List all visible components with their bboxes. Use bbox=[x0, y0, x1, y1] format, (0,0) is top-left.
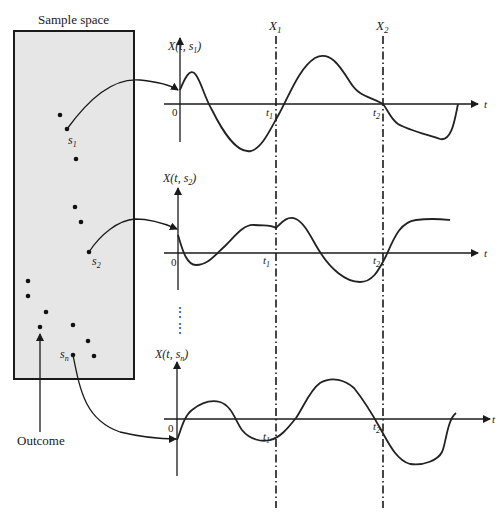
xlabel-n: t bbox=[492, 413, 496, 425]
ellipsis-top: ⋮ bbox=[174, 305, 186, 319]
random-process-diagram: Sample space s1 s2 sn Outcome X1 X2 X(t,… bbox=[0, 0, 504, 520]
t2-label-2: t2 bbox=[373, 254, 380, 269]
sample-function-2 bbox=[178, 218, 450, 282]
plot-sn: X(t, sn) 0 t1 t2 t bbox=[154, 347, 496, 476]
ylabel-n: X(t, sn) bbox=[154, 347, 188, 363]
t1-label-2: t1 bbox=[263, 254, 270, 269]
t2-label-1: t2 bbox=[373, 106, 380, 121]
x1-label: X1 bbox=[268, 18, 281, 35]
origin-2: 0 bbox=[171, 256, 177, 268]
sample-function-n bbox=[177, 379, 456, 464]
xlabel-2: t bbox=[484, 247, 488, 259]
t1-label-n: t1 bbox=[263, 430, 270, 445]
t1-label-1: t1 bbox=[266, 106, 273, 121]
origin-n: 0 bbox=[168, 422, 174, 434]
ylabel-1: X(t, s1) bbox=[167, 39, 201, 55]
plot-s2: X(t, s2) 0 t1 t2 t bbox=[162, 171, 488, 290]
origin-1: 0 bbox=[172, 106, 178, 118]
xlabel-1: t bbox=[484, 98, 488, 110]
plot-s1: X(t, s1) 0 t1 t2 t bbox=[164, 38, 488, 151]
outcome-label: Outcome bbox=[17, 433, 65, 448]
sample-space-title: Sample space bbox=[38, 12, 109, 27]
ellipsis-bottom: ⋮ bbox=[174, 321, 186, 335]
x2-label: X2 bbox=[375, 18, 389, 35]
ylabel-2: X(t, s2) bbox=[162, 171, 196, 187]
